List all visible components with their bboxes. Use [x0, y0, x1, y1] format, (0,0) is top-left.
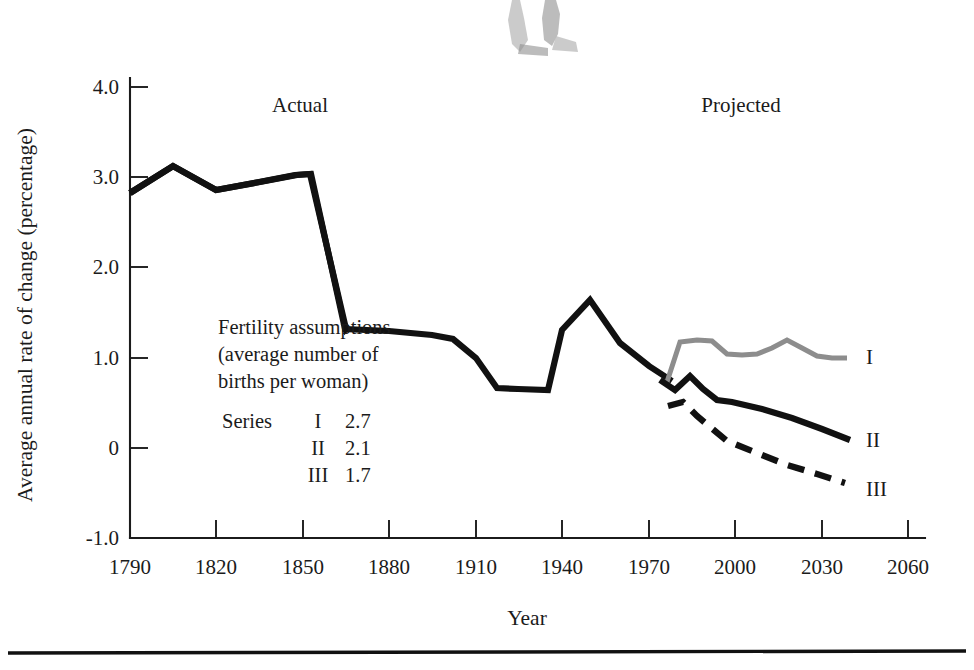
series-iii-line — [668, 402, 845, 483]
note-series-iii-roman: III — [308, 464, 329, 486]
x-tick-label-2030: 2030 — [801, 555, 843, 579]
note-line-1: Fertility assumptions — [218, 316, 391, 339]
y-tick-label-4: 4.0 — [93, 75, 119, 99]
y-tick-label-1: 1.0 — [93, 346, 119, 370]
x-tick-label-2000: 2000 — [714, 555, 756, 579]
series-iii-end-label: III — [866, 477, 887, 501]
x-axis-title: Year — [507, 606, 547, 630]
note-series-ii-roman: II — [311, 437, 325, 459]
actual-region-label: Actual — [272, 93, 328, 117]
projected-region-label: Projected — [701, 93, 781, 117]
series-i-end-label: I — [866, 345, 873, 369]
note-series-i-value: 2.7 — [345, 410, 371, 432]
x-tick-label-1850: 1850 — [282, 555, 324, 579]
note-series-iii-value: 1.7 — [345, 464, 371, 486]
y-axis-title: Average annual rate of change (percentag… — [13, 128, 37, 502]
note-line-3: births per woman) — [218, 370, 368, 393]
y-tick-label-3: 3.0 — [93, 165, 119, 189]
footer-divider — [8, 651, 966, 653]
x-tick-label-2060: 2060 — [887, 555, 929, 579]
x-tick-label-1910: 1910 — [455, 555, 497, 579]
note-series-i-roman: I — [315, 410, 322, 432]
series-actual-line-main — [130, 166, 672, 390]
y-tick-label-neg1: -1.0 — [86, 526, 119, 550]
fertility-assumptions-note: Fertility assumptions (average number of… — [218, 316, 391, 486]
y-tick-label-2: 2.0 — [93, 255, 119, 279]
x-tick-label-1820: 1820 — [195, 555, 237, 579]
x-tick-label-1940: 1940 — [541, 555, 583, 579]
figure-container: 4.0 3.0 2.0 1.0 0 -1.0 1790 1820 1850 18… — [0, 0, 974, 670]
x-axis-ticks — [216, 520, 908, 538]
x-tick-label-1790: 1790 — [109, 555, 151, 579]
scan-artifact — [508, 0, 578, 56]
series-ii-end-label: II — [866, 428, 880, 452]
population-growth-chart: 4.0 3.0 2.0 1.0 0 -1.0 1790 1820 1850 18… — [0, 0, 974, 670]
note-series-heading: Series — [222, 410, 272, 432]
y-axis-ticks — [130, 87, 148, 448]
y-tick-label-0: 0 — [109, 436, 120, 460]
note-line-2: (average number of — [218, 343, 379, 366]
note-series-ii-value: 2.1 — [345, 437, 371, 459]
x-tick-label-1880: 1880 — [368, 555, 410, 579]
x-tick-label-1970: 1970 — [628, 555, 670, 579]
series-ii-line — [660, 376, 850, 440]
